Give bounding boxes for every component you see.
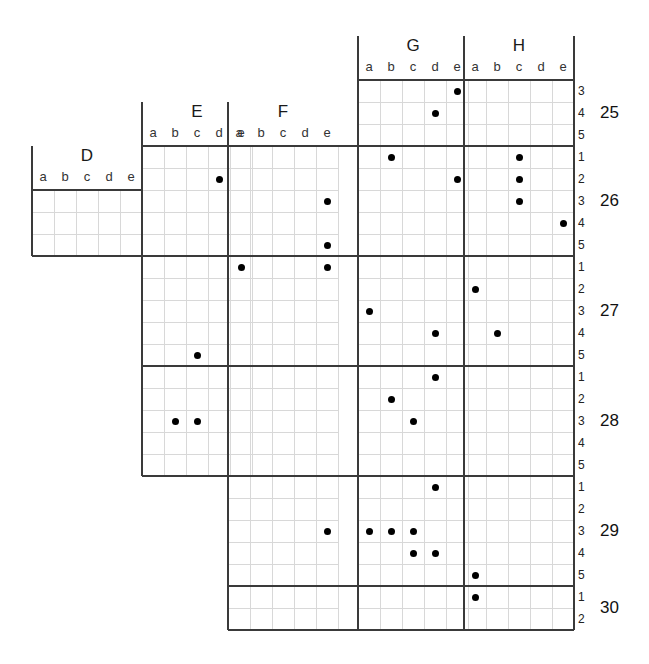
minor-gridlines	[32, 80, 574, 630]
major-gridlines	[32, 36, 574, 630]
excavation-grid-plot	[0, 0, 649, 664]
figure-root: DabcdeEabcdeFabcdeGabcdeHabcde3452512345…	[0, 0, 649, 664]
